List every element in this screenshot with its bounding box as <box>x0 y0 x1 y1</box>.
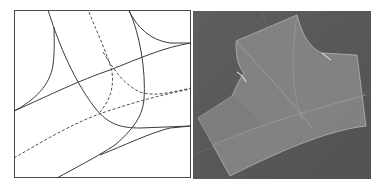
right-panel-surface-render <box>192 0 382 188</box>
curve-diagram <box>0 0 192 188</box>
left-panel-curve-diagram <box>0 0 192 188</box>
surface-render <box>192 0 382 188</box>
